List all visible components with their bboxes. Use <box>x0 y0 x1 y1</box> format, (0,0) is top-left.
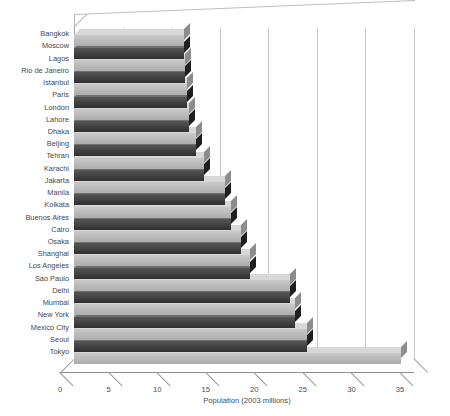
tick-label-10: 10 <box>142 385 172 394</box>
y-label-kolkata: Kolkata <box>1 200 69 209</box>
bar-row <box>74 158 204 169</box>
bar-cairo <box>74 231 241 242</box>
bar-row <box>74 268 250 279</box>
bar-row <box>74 72 185 83</box>
bar-row <box>74 304 295 315</box>
bar-front-face <box>74 97 187 108</box>
bar-row <box>74 84 187 95</box>
bar-mumbai <box>74 304 295 315</box>
bar-front-face <box>74 109 189 120</box>
y-label-mexico-city: Mexico City <box>1 323 69 332</box>
tick-mark-0 <box>60 372 74 386</box>
bar-row <box>74 145 196 156</box>
gridline-35 <box>414 28 415 358</box>
bar-row <box>74 317 295 328</box>
tick-mark-5 <box>109 372 123 386</box>
bar-delhi <box>74 292 290 303</box>
bar-los-angeles <box>74 268 250 279</box>
tick-mark-10 <box>157 372 171 386</box>
tick-label-0: 0 <box>45 385 75 394</box>
bar-front-face <box>74 35 184 46</box>
bar-lagos <box>74 60 185 71</box>
bar-new-york <box>74 317 295 328</box>
tick-label-15: 15 <box>191 385 221 394</box>
bar-row <box>74 133 196 144</box>
y-label-los-angeles: Los Angeles <box>1 261 69 270</box>
bar-tehran <box>74 158 204 169</box>
y-label-mumbai: Mumbai <box>1 298 69 307</box>
bar-row <box>74 219 231 230</box>
y-axis-category-labels: BangkokMoscowLagosRio de JaneiroIstanbul… <box>0 0 69 416</box>
bar-front-face <box>74 353 401 364</box>
bar-row <box>74 243 241 254</box>
bar-london <box>74 109 189 120</box>
y-label-dhaka: Dhaka <box>1 127 69 136</box>
y-label-tokyo: Tokyo <box>1 347 69 356</box>
bar-row <box>74 170 204 181</box>
y-label-osaka: Osaka <box>1 237 69 246</box>
bar-front-face <box>74 317 295 328</box>
bar-rio-de-janeiro <box>74 72 185 83</box>
bar-front-face <box>74 329 307 340</box>
bar-front-face <box>74 341 307 352</box>
chart-back-wall-top <box>74 14 415 28</box>
y-label-sao-paulo: Sao Paulo <box>1 274 69 283</box>
bar-front-face <box>74 292 290 303</box>
bar-row <box>74 109 189 120</box>
y-label-moscow: Moscow <box>1 41 69 50</box>
tick-mark-35 <box>400 372 414 386</box>
bar-buenos-aires <box>74 219 231 230</box>
bar-front-face <box>74 207 231 218</box>
y-label-bangkok: Bangkok <box>1 29 69 38</box>
bar-sao-paulo <box>74 280 290 291</box>
y-label-shanghai: Shanghai <box>1 249 69 258</box>
bar-front-face <box>74 219 231 230</box>
bar-front-face <box>74 60 185 71</box>
y-label-rio-de-janeiro: Rio de Janeiro <box>1 66 69 75</box>
y-label-manila: Manila <box>1 188 69 197</box>
bar-front-face <box>74 243 241 254</box>
y-label-seoul: Seoul <box>1 335 69 344</box>
bar-row <box>74 280 290 291</box>
bar-row <box>74 182 225 193</box>
bar-row <box>74 121 189 132</box>
bar-lahore <box>74 121 189 132</box>
bar-row <box>74 353 401 364</box>
tick-label-5: 5 <box>94 385 124 394</box>
bar-manila <box>74 194 225 205</box>
bar-row <box>74 48 184 59</box>
bar-front-face <box>74 170 204 181</box>
bar-moscow <box>74 48 184 59</box>
y-label-cairo: Cairo <box>1 225 69 234</box>
bar-karachi <box>74 170 204 181</box>
gridline-25 <box>317 28 318 358</box>
bar-front-face <box>74 280 290 291</box>
bar-front-face <box>74 255 250 266</box>
y-label-new-york: New York <box>1 310 69 319</box>
y-label-karachi: Karachi <box>1 164 69 173</box>
bar-front-face <box>74 194 225 205</box>
bar-dhaka <box>74 133 196 144</box>
tick-mark-30 <box>351 372 365 386</box>
bar-bangkok <box>74 35 184 46</box>
y-label-beijing: Beijing <box>1 139 69 148</box>
y-label-jakarta: Jakarta <box>1 176 69 185</box>
bar-front-face <box>74 121 189 132</box>
bar-jakarta <box>74 182 225 193</box>
chart-depth-edge <box>74 14 88 28</box>
bar-row <box>74 292 290 303</box>
gridline-30 <box>365 28 366 358</box>
x-axis-title-text: Population (2003 millions) <box>159 396 290 405</box>
bar-end-cap <box>401 341 407 358</box>
floor-right-edge <box>414 358 432 374</box>
plot-area <box>74 28 414 358</box>
bar-row <box>74 341 307 352</box>
bar-row <box>74 97 187 108</box>
bar-tokyo <box>74 353 401 364</box>
bar-kolkata <box>74 207 231 218</box>
tick-mark-25 <box>303 372 317 386</box>
tick-label-20: 20 <box>239 385 269 394</box>
y-label-paris: Paris <box>1 90 69 99</box>
bar-front-face <box>74 48 184 59</box>
bar-front-face <box>74 72 185 83</box>
